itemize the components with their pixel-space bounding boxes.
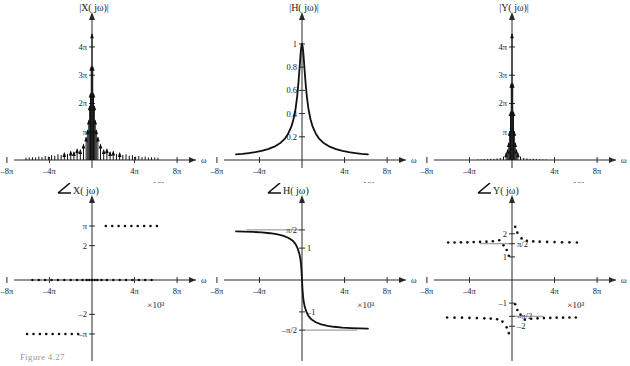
y-axis-arrow — [89, 12, 95, 20]
x-tick-label: 8π — [383, 166, 392, 176]
y-tick-label: 2 — [83, 241, 87, 251]
y-tick-label: 1 — [307, 243, 311, 253]
x-tick-label: –4π — [252, 166, 267, 176]
y-tick-label: –2 — [78, 309, 88, 319]
mag-h-svg: –8π–4π4π8π0.20.40.60.81|H( jω)|ω×10³ — [210, 0, 420, 183]
plot-data — [478, 33, 546, 160]
figure-caption: Figure 4.27 — [20, 352, 65, 362]
svg-text:X( jω): X( jω) — [73, 185, 99, 197]
x-tick-label: –8π — [0, 166, 14, 176]
x-tick-label: 8π — [173, 166, 182, 176]
y-tick-label: 2 — [503, 229, 507, 239]
angle-icon — [268, 183, 281, 193]
x-tick-label: 4π — [340, 286, 349, 296]
x-tick-label: –8π — [420, 286, 434, 296]
y-tick-label: 1 — [293, 39, 297, 49]
x-axis-label: ω — [411, 275, 417, 285]
svg-text:|Y( jω)|: |Y( jω)| — [499, 2, 529, 14]
y-tick-label: 4π — [498, 42, 507, 52]
x-axis-scale-label: ×10³ — [357, 300, 374, 310]
y-tick-label: 0.8 — [286, 62, 297, 72]
x-tick-label: 8π — [593, 166, 602, 176]
plot-title: H( jω) — [268, 183, 309, 197]
y-tick-label: –1 — [498, 298, 508, 308]
x-axis-arrow — [609, 157, 616, 163]
x-axis-arrow — [609, 277, 616, 283]
angle-icon — [58, 183, 71, 193]
x-axis-arrow — [189, 277, 196, 283]
phase-y-svg: –8π–4π4π8π2π/21–1–π/2–2Y( jω)ω×10³ — [420, 183, 630, 366]
mag-y-svg: –8π–4π4π8ππ2π3π4π|Y( jω)|ω×10³ — [420, 0, 630, 183]
plot-title: |X( jω)| — [79, 2, 109, 14]
x-tick-label: –8π — [0, 286, 14, 296]
y-tick-label: 3π — [78, 70, 87, 80]
x-tick-label: 8π — [593, 286, 602, 296]
x-tick-label: –4π — [252, 286, 267, 296]
y-tick-label: 2π — [78, 98, 87, 108]
y-axis-arrow — [89, 195, 95, 203]
mag-x-svg: –8π–4π4π8ππ2π3π4π|X( jω)|ω×10³ — [0, 0, 210, 183]
y-tick-label: 4π — [78, 42, 87, 52]
x-axis-arrow — [399, 277, 406, 283]
angle-icon — [478, 183, 491, 193]
x-axis-label: ω — [621, 275, 627, 285]
x-tick-label: –8π — [210, 166, 224, 176]
plot-title: |Y( jω)| — [499, 2, 529, 14]
x-tick-label: 8π — [173, 286, 182, 296]
y-tick-label: 2π — [498, 98, 507, 108]
y-axis-arrow — [509, 12, 515, 20]
y-tick-label: π — [83, 221, 88, 231]
x-axis-label: ω — [621, 155, 627, 165]
plot-magnitude-y: –8π–4π4π8ππ2π3π4π|Y( jω)|ω×10³ — [420, 0, 630, 183]
phase-h-svg: –8π–4π4π8ππ/21–1–π/2H( jω)ω×10³ — [210, 183, 420, 366]
x-tick-label: –8π — [420, 166, 434, 176]
phase-x-svg: –8π–4π4π8π–π–22πX( jω)ω×10³ — [0, 183, 210, 366]
y-axis-arrow — [299, 12, 305, 20]
x-tick-label: –4π — [462, 166, 477, 176]
plot-title: |H( jω)| — [289, 2, 319, 14]
plot-magnitude-x: –8π–4π4π8ππ2π3π4π|X( jω)|ω×10³ — [0, 0, 210, 183]
x-tick-label: 4π — [550, 166, 559, 176]
x-axis-label: ω — [411, 155, 417, 165]
y-tick-label: 1 — [503, 252, 507, 262]
x-axis-scale-label: ×10³ — [147, 300, 164, 310]
plot-phase-y: –8π–4π4π8π2π/21–1–π/2–2Y( jω)ω×10³ — [420, 183, 630, 366]
y-tick-label: π — [503, 127, 508, 137]
svg-text:|H( jω)|: |H( jω)| — [289, 2, 319, 14]
x-axis-arrow — [189, 157, 196, 163]
x-axis-label: ω — [201, 155, 207, 165]
x-tick-label: 4π — [130, 166, 139, 176]
x-axis-scale-label: ×10³ — [567, 300, 584, 310]
plot-data — [26, 33, 158, 160]
plot-phase-h: –8π–4π4π8ππ/21–1–π/2H( jω)ω×10³ — [210, 183, 420, 366]
y-tick-label: 0.6 — [286, 85, 297, 95]
y-tick-label: –2 — [516, 321, 526, 331]
x-axis-arrow — [399, 157, 406, 163]
x-axis-label: ω — [201, 275, 207, 285]
plot-magnitude-h: –8π–4π4π8π0.20.40.60.81|H( jω)|ω×10³ — [210, 0, 420, 183]
x-tick-label: 4π — [130, 286, 139, 296]
x-tick-label: 8π — [383, 286, 392, 296]
x-tick-label: –4π — [42, 166, 57, 176]
x-tick-label: –4π — [462, 286, 477, 296]
x-tick-label: –8π — [210, 286, 224, 296]
y-tick-label: –π/2 — [281, 325, 297, 335]
plot-title: Y( jω) — [478, 183, 519, 197]
y-tick-label: 3π — [498, 70, 507, 80]
x-tick-label: 4π — [340, 166, 349, 176]
y-axis-arrow — [299, 195, 305, 203]
y-axis-arrow — [509, 195, 515, 203]
figure-container: –8π–4π4π8ππ2π3π4π|X( jω)|ω×10³ –8π–4π4π8… — [0, 0, 630, 366]
x-tick-label: –4π — [42, 286, 57, 296]
plot-phase-x: –8π–4π4π8π–π–22πX( jω)ω×10³ — [0, 183, 210, 366]
plot-title: X( jω) — [58, 183, 99, 197]
x-tick-label: 4π — [550, 286, 559, 296]
svg-text:Y( jω): Y( jω) — [493, 185, 519, 197]
svg-text:H( jω): H( jω) — [283, 185, 309, 197]
svg-text:|X( jω)|: |X( jω)| — [79, 2, 109, 14]
